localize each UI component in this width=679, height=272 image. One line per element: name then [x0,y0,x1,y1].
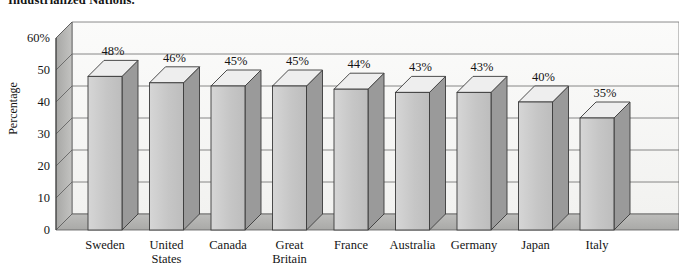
bar-great-britain[interactable] [273,70,323,230]
chart-figure: Industrialized Nations. Percentage [0,0,679,272]
y-tick-20: 20 [38,159,51,173]
bars-layer [88,60,630,230]
bar-value-label: 46% [163,51,186,65]
bar-canada[interactable] [211,70,261,230]
bar-value-label: 40% [532,70,555,84]
bar-united-states[interactable] [150,67,200,230]
bar-value-label: 43% [409,60,432,74]
y-tick-50: 50 [38,63,51,77]
y-tick-10: 10 [38,191,51,205]
bar-sweden[interactable] [88,60,138,230]
bar-value-label: 48% [102,44,125,58]
y-tick-30: 30 [38,127,51,141]
bar-chart-plot: 60% 50 40 30 20 10 0 48%46%45%45%44%43%4… [0,0,679,272]
bar-france[interactable] [334,73,384,230]
y-tick-40: 40 [38,95,51,109]
bar-value-label: 44% [348,57,371,71]
bar-value-label: 45% [225,54,248,68]
bar-value-label: 45% [286,54,309,68]
bar-value-label: 43% [471,60,494,74]
bar-value-label: 35% [594,86,617,100]
y-tick-0: 0 [44,223,50,237]
bar-germany[interactable] [457,76,507,230]
y-axis-tick-labels: 60% 50 40 30 20 10 0 [27,31,50,237]
bar-japan[interactable] [519,86,569,230]
bar-australia[interactable] [396,76,446,230]
y-tick-60: 60% [27,31,50,45]
bar-italy[interactable] [580,102,630,230]
category-label: Italy [552,238,642,252]
